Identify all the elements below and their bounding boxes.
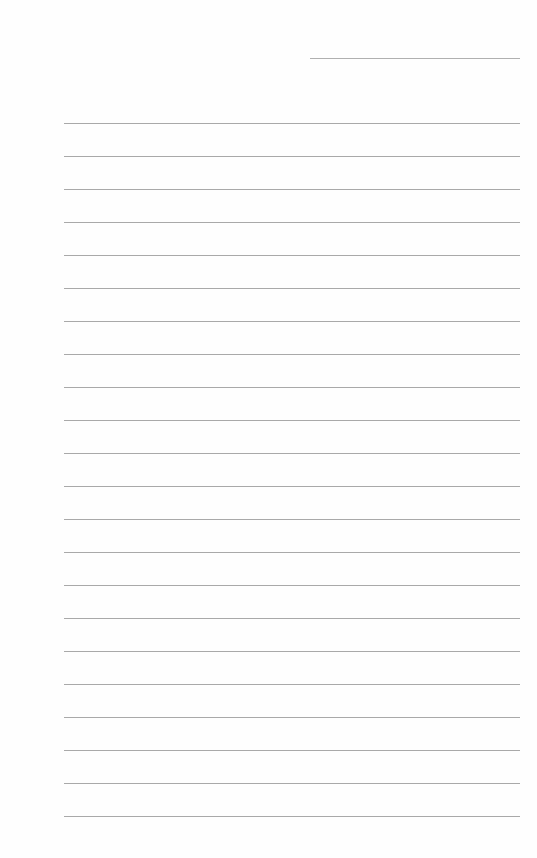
- ruled-line: [64, 123, 520, 124]
- ruled-line: [64, 222, 520, 223]
- ruled-line: [64, 321, 520, 322]
- ruled-line: [64, 288, 520, 289]
- ruled-line: [64, 717, 520, 718]
- ruled-line: [64, 453, 520, 454]
- ruled-line: [64, 585, 520, 586]
- lined-page: [0, 0, 537, 858]
- ruled-line: [64, 750, 520, 751]
- ruled-line: [64, 420, 520, 421]
- ruled-line: [64, 552, 520, 553]
- ruled-line: [64, 486, 520, 487]
- ruled-line: [64, 618, 520, 619]
- ruled-line: [64, 387, 520, 388]
- ruled-line: [64, 783, 520, 784]
- ruled-line: [64, 156, 520, 157]
- ruled-line: [64, 189, 520, 190]
- ruled-line: [64, 354, 520, 355]
- ruled-line: [64, 519, 520, 520]
- ruled-line: [64, 651, 520, 652]
- ruled-line: [64, 255, 520, 256]
- header-rule: [310, 58, 520, 59]
- ruled-line: [64, 816, 520, 817]
- ruled-line: [64, 684, 520, 685]
